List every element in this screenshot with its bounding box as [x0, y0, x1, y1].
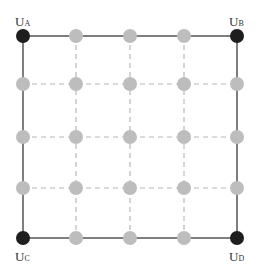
- grid-node: [177, 130, 191, 144]
- grid-node: [69, 130, 83, 144]
- grid-node: [177, 181, 191, 195]
- grid-diagram: [0, 0, 259, 274]
- grid-node: [123, 231, 137, 245]
- corner-node: [230, 231, 244, 245]
- grid-node: [177, 29, 191, 43]
- grid-node: [16, 77, 30, 91]
- grid-node: [123, 181, 137, 195]
- grid-node: [16, 181, 30, 195]
- label-ud: UD: [229, 250, 244, 263]
- grid-node: [69, 77, 83, 91]
- corner-node: [230, 29, 244, 43]
- grid-node: [123, 77, 137, 91]
- grid-node: [69, 231, 83, 245]
- label-uc: UC: [15, 250, 30, 263]
- grid-node: [230, 77, 244, 91]
- grid-node: [230, 130, 244, 144]
- grid-node: [69, 181, 83, 195]
- grid-node: [123, 29, 137, 43]
- grid-node: [230, 181, 244, 195]
- grid-node: [123, 130, 137, 144]
- grid-node: [69, 29, 83, 43]
- grid-node: [177, 77, 191, 91]
- label-ub: UB: [229, 15, 244, 28]
- corner-node: [16, 29, 30, 43]
- label-ua: UA: [15, 15, 30, 28]
- grid-node: [177, 231, 191, 245]
- corner-node: [16, 231, 30, 245]
- grid-node: [16, 130, 30, 144]
